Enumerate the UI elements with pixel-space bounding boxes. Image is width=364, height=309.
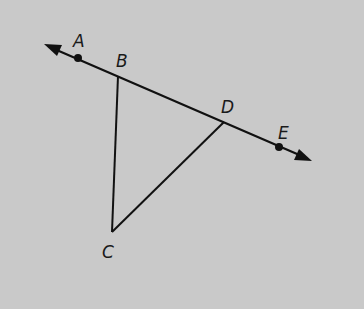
label-c: C [102,242,114,262]
segment-bc [112,76,118,232]
geometry-diagram: A B D E C [0,0,364,309]
point-e-dot [275,143,283,151]
segment-cd [112,122,224,232]
arrowhead-right-icon [294,149,312,161]
label-d: D [221,97,234,117]
line-ae [44,44,312,161]
label-e: E [278,123,289,143]
point-a-dot [74,54,82,62]
label-b: B [116,51,128,71]
label-a: A [72,31,85,51]
diagram-svg: A B D E C [0,0,364,309]
arrowhead-left-icon [44,44,62,56]
